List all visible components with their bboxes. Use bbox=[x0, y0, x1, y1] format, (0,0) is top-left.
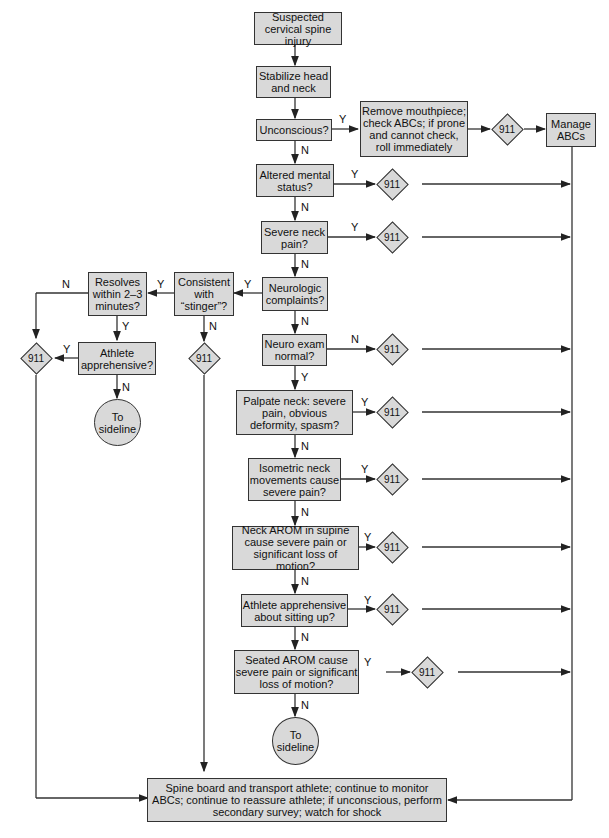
call-911-diamond: 911 bbox=[377, 594, 407, 624]
no-label: N bbox=[301, 440, 309, 452]
no-label: N bbox=[301, 631, 309, 643]
seated-arom-decision: Seated AROM cause severe pain or signifi… bbox=[234, 650, 359, 694]
spine-board-node: Spine board and transport athlete; conti… bbox=[147, 778, 447, 822]
no-label: N bbox=[122, 381, 130, 393]
yes-label: Y bbox=[361, 396, 368, 408]
yes-label: Y bbox=[364, 656, 371, 668]
call-911-diamond: 911 bbox=[492, 114, 522, 144]
call-911-diamond: 911 bbox=[377, 464, 407, 494]
yes-label: Y bbox=[63, 343, 70, 355]
no-label: N bbox=[301, 506, 309, 518]
to-sideline-terminal: To sideline bbox=[94, 399, 141, 446]
unconscious-decision: Unconscious? bbox=[256, 119, 332, 141]
call-911-diamond: 911 bbox=[21, 343, 51, 373]
no-label: N bbox=[209, 320, 217, 332]
yes-label: Y bbox=[361, 463, 368, 475]
neurologic-complaints-decision: Neurologic complaints? bbox=[262, 277, 328, 311]
no-label: N bbox=[62, 278, 70, 290]
to-sideline-terminal: To sideline bbox=[272, 717, 319, 765]
altered-mental-status-decision: Altered mental status? bbox=[256, 164, 334, 197]
stinger-decision: Consistent with “stinger”? bbox=[174, 272, 234, 316]
yes-label: Y bbox=[351, 221, 358, 233]
call-911-diamond: 911 bbox=[412, 657, 442, 687]
yes-label: Y bbox=[301, 371, 308, 383]
sitting-up-decision: Athlete apprehensive about sitting up? bbox=[241, 594, 348, 627]
manage-abcs-node: Manage ABCs bbox=[546, 113, 596, 147]
no-label: N bbox=[301, 144, 309, 156]
no-label: N bbox=[351, 333, 359, 345]
no-label: N bbox=[301, 699, 309, 711]
call-911-diamond: 911 bbox=[377, 397, 407, 427]
yes-label: Y bbox=[122, 320, 129, 332]
no-label: N bbox=[301, 201, 309, 213]
remove-mouthpiece-node: Remove mouthpiece; check ABCs; if prone … bbox=[360, 101, 468, 157]
no-label: N bbox=[301, 258, 309, 270]
no-label: N bbox=[301, 575, 309, 587]
resolves-decision: Resolves within 2–3 minutes? bbox=[88, 272, 147, 316]
supine-arom-decision: Neck AROM in supine cause severe pain or… bbox=[232, 526, 359, 570]
yes-label: Y bbox=[351, 168, 358, 180]
call-911-diamond: 911 bbox=[189, 343, 219, 373]
yes-label: Y bbox=[244, 278, 251, 290]
severe-neck-pain-decision: Severe neck pain? bbox=[261, 221, 328, 254]
yes-label: Y bbox=[339, 113, 346, 125]
yes-label: Y bbox=[364, 594, 371, 606]
call-911-diamond: 911 bbox=[377, 222, 407, 252]
stabilize-node: Stabilize head and neck bbox=[256, 66, 331, 98]
yes-label: Y bbox=[157, 278, 164, 290]
start-node: Suspected cervical spine injury bbox=[254, 12, 342, 45]
call-911-diamond: 911 bbox=[377, 334, 407, 364]
yes-label: Y bbox=[364, 531, 371, 543]
neuro-exam-decision: Neuro exam normal? bbox=[262, 334, 327, 366]
palpate-neck-decision: Palpate neck: severe pain, obvious defor… bbox=[236, 390, 353, 435]
no-label: N bbox=[301, 315, 309, 327]
call-911-diamond: 911 bbox=[377, 532, 407, 562]
isometric-decision: Isometric neck movements cause severe pa… bbox=[248, 458, 341, 501]
call-911-diamond: 911 bbox=[377, 169, 407, 199]
athlete-apprehensive-decision: Athlete apprehensive? bbox=[78, 342, 156, 375]
